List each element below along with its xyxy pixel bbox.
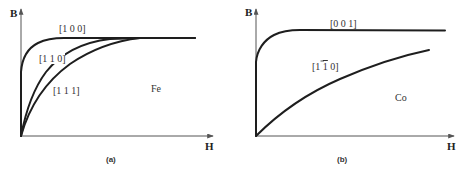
label-co-1m10: [1 1 0] xyxy=(312,61,339,72)
figure: B H (a) [1 0 0] [1 1 0] [1 1 1] Fe B H (… xyxy=(0,0,461,172)
material-label-co: Co xyxy=(395,92,407,103)
label-fe-100: [1 0 0] xyxy=(59,23,86,34)
caption-b: (b) xyxy=(337,155,348,164)
material-label-fe: Fe xyxy=(151,83,162,94)
y-axis-label-b: B xyxy=(245,6,253,18)
panel-b: B H (b) [0 0 1] [1 1 0] Co xyxy=(245,6,456,164)
label-co-001: [0 0 1] xyxy=(330,18,357,29)
label-fe-110: [1 1 0] xyxy=(39,53,66,64)
panel-a: B H (a) [1 0 0] [1 1 0] [1 1 1] Fe xyxy=(10,7,214,164)
curve-co-001 xyxy=(256,30,445,136)
x-axis-label-b: H xyxy=(447,140,456,152)
label-fe-111: [1 1 1] xyxy=(53,85,80,96)
x-axis-label-a: H xyxy=(205,140,214,152)
y-axis-label-a: B xyxy=(10,7,18,19)
caption-a: (a) xyxy=(106,155,116,164)
